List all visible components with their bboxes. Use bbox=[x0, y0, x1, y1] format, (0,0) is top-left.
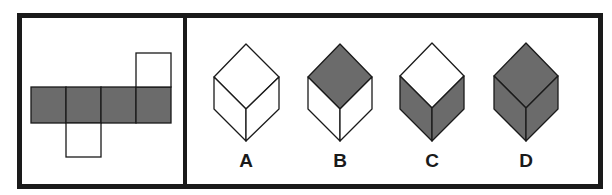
cube-option-d[interactable] bbox=[494, 43, 558, 141]
net-square-4 bbox=[136, 87, 171, 123]
net-square-3 bbox=[101, 87, 136, 123]
cube-option-c[interactable] bbox=[400, 43, 464, 141]
option-label-b: B bbox=[320, 150, 360, 172]
option-label-d: D bbox=[506, 150, 546, 172]
net-square-2 bbox=[66, 87, 101, 123]
cube-option-b[interactable] bbox=[308, 44, 372, 141]
cube-option-a[interactable] bbox=[214, 44, 279, 141]
net-square-1 bbox=[31, 87, 66, 123]
net-square-bottom bbox=[66, 123, 101, 157]
option-label-c: C bbox=[412, 150, 452, 172]
option-label-a: A bbox=[226, 150, 266, 172]
net-square-top bbox=[136, 53, 171, 87]
cube-net bbox=[31, 53, 171, 157]
